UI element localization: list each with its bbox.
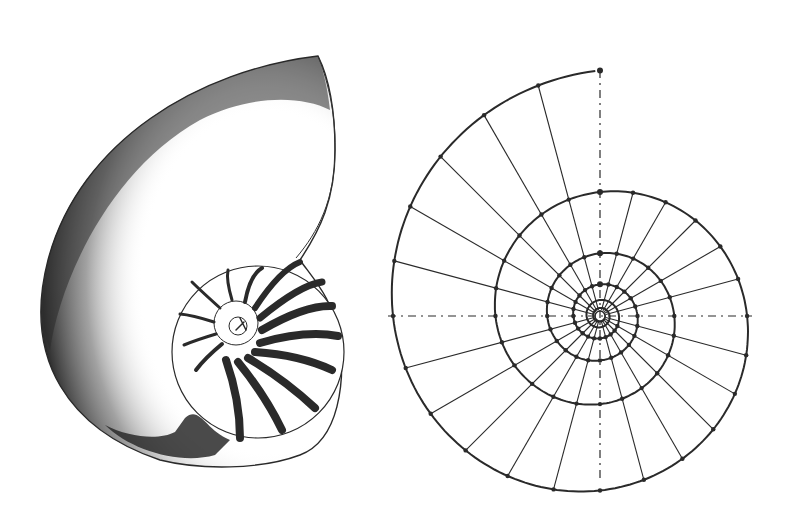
spiral-node: [633, 304, 637, 308]
spiral-node: [659, 279, 663, 283]
spiral-node: [500, 340, 504, 344]
spiral-node: [666, 353, 670, 357]
spiral-node: [631, 191, 635, 195]
spiral-node: [718, 244, 722, 248]
spiral-node: [628, 296, 632, 300]
radial-line: [606, 279, 738, 314]
spiral-node: [428, 412, 432, 416]
nautilus-and-spiral-figure: [0, 0, 793, 515]
spiral-node: [567, 197, 571, 201]
spiral-node: [505, 474, 509, 478]
spiral-node: [711, 427, 715, 431]
spiral-node: [568, 263, 572, 267]
spiral-node: [632, 334, 636, 338]
spiral-node: [392, 259, 396, 263]
spiral-node: [403, 366, 407, 370]
spiral-node: [577, 293, 581, 297]
spiral-node: [622, 289, 626, 293]
spiral-node: [573, 300, 577, 304]
spiral-node: [576, 326, 580, 330]
spiral-node: [463, 448, 467, 452]
spiral-node: [635, 324, 639, 328]
spiral-node: [631, 256, 635, 260]
radial-line: [605, 247, 720, 313]
spiral-node: [612, 328, 616, 332]
spiral-node: [502, 258, 506, 262]
spiral-node: [583, 288, 587, 292]
spiral-node: [551, 395, 555, 399]
spiral-node: [586, 358, 590, 362]
spiral-node: [646, 266, 650, 270]
spiral-node: [609, 356, 613, 360]
spiral-node: [642, 478, 646, 482]
spiral-node: [672, 334, 676, 338]
spiral-node: [598, 488, 602, 492]
radial-line: [605, 319, 735, 394]
nautilus-shell: [41, 56, 344, 467]
spiral-node: [545, 300, 549, 304]
spiral-node: [615, 285, 619, 289]
spiral-node: [494, 286, 498, 290]
spiral-node: [574, 355, 578, 359]
spiral-node: [598, 358, 602, 362]
spiral-node: [571, 307, 575, 311]
spiral-node: [639, 386, 643, 390]
spiral-node: [539, 212, 543, 216]
log-spiral-construction: [391, 67, 749, 492]
spiral-node: [548, 327, 552, 331]
spiral-node: [592, 336, 596, 340]
spiral-node: [586, 334, 590, 338]
spiral-node: [582, 255, 586, 259]
spiral-node: [744, 353, 748, 357]
spiral-node: [603, 335, 607, 339]
spiral-node: [663, 200, 667, 204]
spiral-node: [736, 277, 740, 281]
spiral-node: [438, 154, 442, 158]
spiral-node: [530, 382, 534, 386]
spiral-node: [620, 397, 624, 401]
radial-line: [602, 193, 633, 310]
spiral-node: [614, 252, 618, 256]
spiral-node: [680, 457, 684, 461]
radial-line: [603, 202, 666, 310]
spiral-node: [580, 331, 584, 335]
spiral-node: [668, 295, 672, 299]
spiral-node: [536, 83, 540, 87]
spiral-node: [655, 371, 659, 375]
spiral-node: [733, 392, 737, 396]
spiral-node: [551, 487, 555, 491]
spiral-node: [590, 284, 594, 288]
spiral-node: [549, 286, 553, 290]
spiral-node: [606, 282, 610, 286]
spiral-node: [517, 233, 521, 237]
spiral-node: [574, 401, 578, 405]
spiral-node: [608, 332, 612, 336]
dashed-axes: [388, 70, 752, 482]
spiral-node: [619, 350, 623, 354]
spiral-node: [557, 273, 561, 277]
spiral-node: [482, 113, 486, 117]
spiral-node: [555, 339, 559, 343]
spiral-node: [693, 218, 697, 222]
spiral-node: [627, 343, 631, 347]
spiral-node: [512, 363, 516, 367]
radial-line: [604, 221, 695, 312]
spiral-node: [564, 348, 568, 352]
spiral-node: [615, 324, 619, 328]
spiral-node: [573, 321, 577, 325]
spiral-node: [408, 204, 412, 208]
radial-line: [606, 318, 746, 356]
